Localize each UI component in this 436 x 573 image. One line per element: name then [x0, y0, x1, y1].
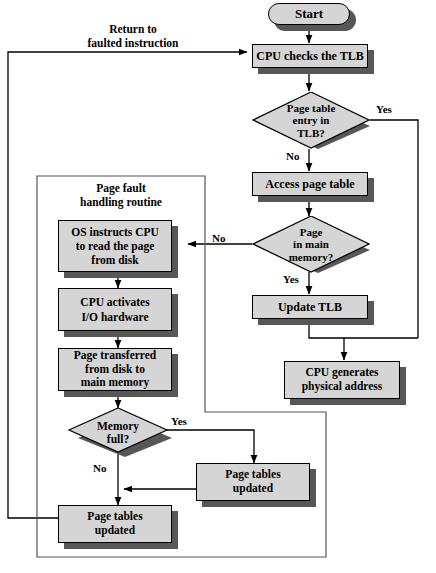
label-no-memory-full: No [93, 462, 106, 474]
page-fault-panel-title: Page fault handling routine [58, 182, 184, 209]
node-update-tlb-label: Update TLB [278, 300, 342, 315]
label-yes-tlb: Yes [376, 103, 392, 115]
node-page-table-entry-in-tlb[interactable]: Page table entry in TLB? [252, 92, 370, 149]
label-return-to-faulted-instruction: Return to faulted instruction [63, 23, 203, 50]
label-no-main-memory: No [212, 232, 225, 244]
node-page-tables-updated-bottom[interactable]: Page tables updated [58, 505, 172, 543]
node-cpu-activates-io-hardware[interactable]: CPU activates I/O hardware [58, 288, 172, 331]
node-cpu-generates-physical-address[interactable]: CPU generates physical address [284, 361, 400, 399]
node-page-transferred-from-disk-to-main-memory[interactable]: Page transferred from disk to main memor… [58, 348, 172, 391]
node-cpu-checks-the-tlb-label: CPU checks the TLB [256, 49, 363, 64]
node-access-page-table-label: Access page table [265, 177, 354, 192]
node-access-page-table[interactable]: Access page table [252, 172, 368, 196]
label-no-tlb: No [286, 150, 299, 162]
edge-tlb-yes [370, 120, 418, 338]
node-start[interactable]: Start [268, 3, 350, 25]
label-yes-memory-full: Yes [171, 415, 187, 427]
node-os-instructs-cpu-to-read-the-page-from-disk[interactable]: OS instructs CPU to read the page from d… [58, 220, 172, 272]
node-start-label: Start [295, 6, 323, 22]
label-yes-main-memory: Yes [283, 273, 299, 285]
node-update-tlb[interactable]: Update TLB [252, 295, 368, 319]
node-page-in-main-memory[interactable]: Page in main memory? [252, 216, 370, 273]
node-cpu-checks-the-tlb[interactable]: CPU checks the TLB [252, 44, 368, 68]
node-memory-full[interactable]: Memory full? [59, 408, 177, 457]
node-page-tables-updated-right[interactable]: Page tables updated [196, 463, 310, 501]
flowchart-diagram: Start CPU checks the TLB Page table entr… [0, 0, 436, 573]
